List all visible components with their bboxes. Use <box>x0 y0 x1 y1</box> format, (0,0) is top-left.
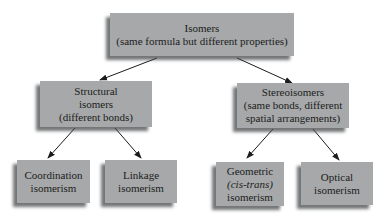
node-optical-isomerism: Optical isomerism <box>301 162 373 205</box>
node-stereo-line-3: spatial arrangements) <box>246 112 340 125</box>
node-linkage-isomerism: Linkage isomerism <box>105 160 177 203</box>
node-geometric-line-1: Geometric <box>227 165 273 178</box>
node-geometric-line-3: isomerism <box>227 191 273 204</box>
arrow-root-to-structural <box>100 58 157 80</box>
node-structural-line-3: (different bonds) <box>59 111 133 124</box>
node-structural-line-2: isomers <box>79 98 113 111</box>
node-coordination-line-1: Coordination <box>24 169 82 182</box>
node-stereoisomers: Stereoisomers (same bonds, different spa… <box>237 83 349 128</box>
node-isomers-title: Isomers <box>185 22 220 35</box>
arrow-structural-to-linkage <box>115 128 141 158</box>
node-geometric-isomerism: Geometric (cis-trans) isomerism <box>216 162 284 206</box>
node-linkage-line-2: isomerism <box>118 182 164 195</box>
node-stereo-line-1: Stereoisomers <box>262 86 324 99</box>
node-coordination-line-2: isomerism <box>31 182 77 195</box>
node-geometric-line-2: (cis-trans) <box>227 178 273 191</box>
node-linkage-line-1: Linkage <box>123 169 159 182</box>
node-structural-isomers: Structural isomers (different bonds) <box>40 81 152 127</box>
arrow-stereo-to-geometric <box>247 129 273 158</box>
arrow-stereo-to-optical <box>313 129 339 160</box>
node-coordination-isomerism: Coordination isomerism <box>17 160 90 203</box>
arrow-root-to-stereo <box>237 58 292 83</box>
node-isomers: Isomers (same formula but different prop… <box>110 13 294 56</box>
node-optical-line-2: isomerism <box>314 184 360 197</box>
node-stereo-line-2: (same bonds, different <box>244 99 342 112</box>
node-isomers-subtitle: (same formula but different properties) <box>116 35 287 48</box>
node-optical-line-1: Optical <box>321 171 353 184</box>
arrow-structural-to-coordination <box>48 128 75 158</box>
node-structural-line-1: Structural <box>74 85 117 98</box>
